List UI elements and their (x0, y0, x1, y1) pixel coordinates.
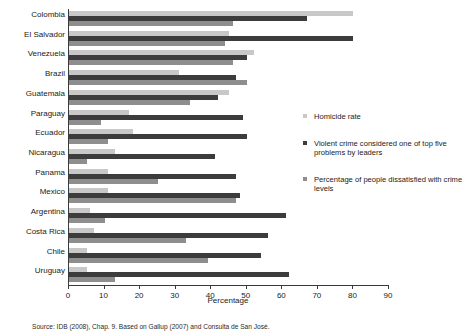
chart-figure: 0102030405060708090 ColombiaEl SalvadorV… (0, 0, 476, 336)
bar-argentina-series-2 (69, 218, 105, 223)
country-label: Brazil (45, 69, 65, 79)
legend-entry: Violent crime considered one of top five… (303, 139, 473, 158)
x-axis-title: Percentage (68, 296, 388, 305)
x-axis-tick-mark (352, 285, 353, 289)
country-label: Panama (35, 168, 65, 178)
bar-paraguay-series-2 (69, 120, 101, 125)
bar-nicaragua-series-2 (69, 159, 87, 164)
x-axis-tick-mark (104, 285, 105, 289)
x-axis-tick-mark (175, 285, 176, 289)
source-note: Source: IDB (2008), Chap. 9. Based on Ga… (32, 322, 270, 331)
bar-mexico-series-2 (69, 198, 236, 203)
x-axis-line (68, 285, 389, 286)
bar-chile-series-2 (69, 258, 208, 263)
country-label: Paraguay (31, 109, 65, 119)
legend-label: Homicide rate (314, 112, 361, 121)
country-label: Chile (47, 247, 65, 257)
country-label: Venezuela (28, 49, 65, 59)
country-label: Ecuador (35, 128, 65, 138)
x-axis-tick-mark (317, 285, 318, 289)
legend-swatch-icon (303, 141, 307, 145)
country-label: Mexico (40, 187, 65, 197)
country-label: Guatemala (26, 89, 65, 99)
bar-panama-series-2 (69, 179, 158, 184)
x-axis-tick-mark (210, 285, 211, 289)
legend-swatch-icon (303, 177, 307, 181)
x-axis-tick-mark (68, 285, 69, 289)
bar-el-salvador-series-2 (69, 41, 225, 46)
country-label: Colombia (31, 10, 65, 20)
bar-colombia-series-2 (69, 21, 233, 26)
bar-guatemala-series-2 (69, 100, 190, 105)
legend-label: Violent crime considered one of top five… (314, 139, 447, 158)
legend-entry: Homicide rate (303, 112, 473, 122)
legend-label: Percentage of people dissatisfied with c… (314, 175, 462, 194)
x-axis-tick-mark (281, 285, 282, 289)
chart-legend: Homicide rateViolent crime considered on… (303, 112, 473, 211)
bar-nicaragua-series-1 (69, 154, 215, 159)
country-label: Nicaragua (29, 148, 65, 158)
country-label: Argentina (31, 207, 65, 217)
x-axis-tick-mark (139, 285, 140, 289)
country-label: Costa Rica (26, 227, 65, 237)
bar-uruguay-series-2 (69, 277, 115, 282)
legend-entry: Percentage of people dissatisfied with c… (303, 175, 473, 194)
bar-brazil-series-2 (69, 80, 247, 85)
country-label: Uruguay (35, 266, 65, 276)
x-axis-tick-mark (388, 285, 389, 289)
bar-costa-rica-series-2 (69, 238, 186, 243)
x-axis-tick-mark (246, 285, 247, 289)
bar-venezuela-series-2 (69, 60, 233, 65)
country-label: El Salvador (24, 30, 65, 40)
bar-ecuador-series-2 (69, 139, 108, 144)
legend-swatch-icon (303, 114, 307, 118)
